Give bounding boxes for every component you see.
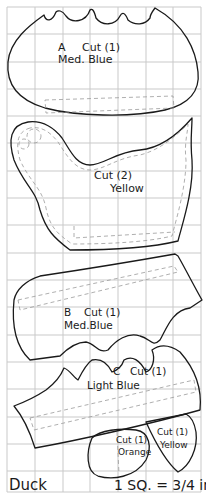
label-a-color: Med. Blue	[58, 53, 113, 66]
label-b-cut: Cut (1)	[84, 306, 120, 318]
label-b-letter: B	[64, 306, 71, 318]
scale-note: 1 SQ. = 3/4 in.	[114, 477, 206, 493]
label-wing-color: Yellow	[109, 182, 144, 195]
label-c-letter: C	[113, 365, 120, 377]
label-beak-color: Orange	[118, 447, 152, 457]
piece-wing	[11, 118, 192, 250]
label-tuft-color: Yellow	[159, 440, 188, 450]
label-beak-cut: Cut (1)	[116, 435, 147, 445]
label-c-cut: Cut (1)	[130, 365, 166, 377]
pattern-title: Duck	[9, 476, 47, 494]
pattern-sheet: A Cut (1) Med. Blue Cut (2) Yellow B Cut…	[0, 0, 206, 498]
label-c-color: Light Blue	[87, 379, 140, 391]
label-tuft-cut: Cut (1)	[157, 427, 188, 437]
label-b-color: Med.Blue	[64, 319, 113, 331]
label-wing-cut: Cut (2)	[94, 169, 132, 182]
